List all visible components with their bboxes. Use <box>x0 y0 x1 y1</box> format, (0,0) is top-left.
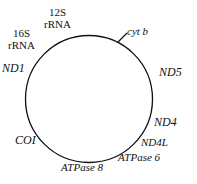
genome-circle <box>26 36 153 163</box>
label-atpase-8: ATPase 8 <box>61 162 103 174</box>
label-12s-rrna: 12S rRNA <box>44 7 71 31</box>
label-nd5: ND5 <box>159 66 182 79</box>
label-16s-rrna: 16S rRNA <box>8 28 35 52</box>
label-coi: COI <box>15 134 36 147</box>
label-16s-rrna-line2: rRNA <box>8 40 35 52</box>
circular-genome-map-figure: 12S rRNA 16S rRNA ND1 cyt b ND5 ND4 ND4L… <box>0 0 197 184</box>
label-cyt-b: cyt b <box>127 26 148 38</box>
cyt-b-tick-mark <box>118 33 127 42</box>
label-atpase-6: ATPase 6 <box>118 152 160 164</box>
label-12s-rrna-line2: rRNA <box>44 19 71 31</box>
label-nd4l: ND4L <box>141 137 168 149</box>
label-nd1: ND1 <box>2 62 25 75</box>
label-nd4: ND4 <box>154 116 177 129</box>
